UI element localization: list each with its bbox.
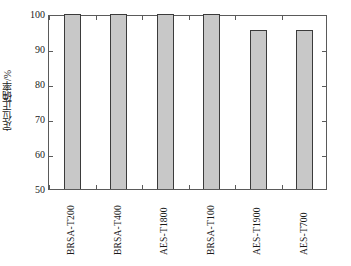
figure-caption <box>0 259 351 266</box>
y-axis-label: 定位正确率/% <box>2 40 20 160</box>
x-tick-label: BRSA-T100 <box>205 193 217 255</box>
bar <box>203 14 220 189</box>
y-tick-mark <box>49 51 53 52</box>
x-tick-label: AES-T700 <box>298 193 310 255</box>
y-tick-label: 60 <box>19 150 45 160</box>
x-tick-mark <box>49 16 50 20</box>
x-tick-mark <box>49 185 50 189</box>
x-tick-mark <box>282 16 283 20</box>
x-tick-mark <box>189 185 190 189</box>
y-tick-label: 100 <box>19 10 45 20</box>
bar <box>110 14 127 189</box>
x-tick-mark <box>96 185 97 189</box>
y-tick-mark <box>322 121 326 122</box>
x-tick-mark <box>235 16 236 20</box>
x-tick-label: BRSA-T400 <box>112 193 124 255</box>
y-tick-mark <box>49 156 53 157</box>
y-tick-label: 90 <box>19 45 45 55</box>
bar <box>250 30 267 189</box>
x-tick-mark <box>189 16 190 20</box>
plot-area <box>48 15 327 190</box>
y-tick-label: 70 <box>19 115 45 125</box>
x-tick-mark <box>142 185 143 189</box>
y-tick-mark <box>49 86 53 87</box>
bar <box>64 14 81 189</box>
bar <box>157 14 174 189</box>
x-tick-mark <box>142 16 143 20</box>
y-tick-label: 80 <box>19 80 45 90</box>
x-tick-mark <box>96 16 97 20</box>
y-tick-mark <box>322 86 326 87</box>
y-tick-mark <box>322 51 326 52</box>
bar <box>296 30 313 189</box>
x-tick-mark <box>282 185 283 189</box>
bar-chart-figure: 定位正确率/% 5060708090100 BRSA-T200BRSA-T400… <box>0 0 351 266</box>
y-tick-label: 50 <box>19 185 45 195</box>
x-tick-label: BRSA-T200 <box>65 193 77 255</box>
x-tick-label: AES-T1900 <box>251 193 263 255</box>
x-tick-label: AES-T1800 <box>158 193 170 255</box>
x-tick-mark <box>235 185 236 189</box>
y-tick-mark <box>49 121 53 122</box>
y-tick-mark <box>322 156 326 157</box>
